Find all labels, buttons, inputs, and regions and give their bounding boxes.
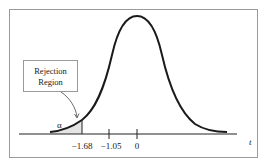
alpha-label: α xyxy=(57,120,62,130)
tick-label-test-stat: −1.05 xyxy=(101,141,122,151)
callout-line2: Region xyxy=(38,77,63,87)
tick-label-critical: −1.68 xyxy=(72,141,93,151)
callout-line1: Rejection xyxy=(34,66,67,76)
t-distribution-diagram: −1.68 −1.05 0 t α Rejection Region xyxy=(0,0,267,167)
tick-label-zero: 0 xyxy=(135,141,140,151)
